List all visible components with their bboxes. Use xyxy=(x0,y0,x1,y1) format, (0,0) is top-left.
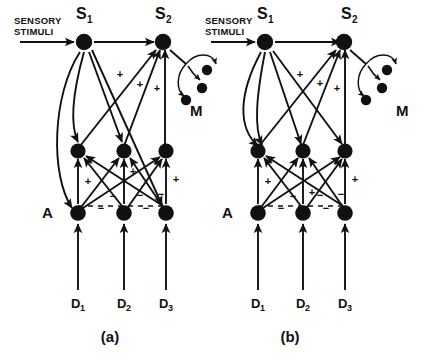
panel-a-plus-1: + xyxy=(117,68,123,80)
panel-b-edge-b1-s2 xyxy=(260,50,336,145)
panel-a-d3-label: D xyxy=(159,296,168,311)
panel-b-motor-node-2 xyxy=(377,83,387,93)
panel-b-minus-3: − xyxy=(290,190,296,202)
panel-b-minus-5: − xyxy=(338,188,344,200)
panel-b-d2-sub: 2 xyxy=(305,303,310,313)
panel-a-plus-3: + xyxy=(154,82,160,94)
panel-b-s2-label: S xyxy=(341,5,352,22)
panel-b-plus-4: + xyxy=(265,175,271,187)
panel-a-d3-sub: 3 xyxy=(168,303,173,313)
panel-a-edge-s1-a1 xyxy=(57,52,80,208)
panel-b-d1-sub: 1 xyxy=(260,303,265,313)
panel-b-motor-node-1 xyxy=(382,65,392,75)
panel-a-plus-2: + xyxy=(137,78,143,90)
panel-b-plus-1: + xyxy=(297,68,303,80)
panel-a-caption: (a) xyxy=(101,328,119,345)
panel-b-edge-s1-b3 xyxy=(273,51,342,144)
panel-a-node-b1 xyxy=(70,143,85,158)
panel-a-s2-sub: 2 xyxy=(166,14,172,25)
panel-b-node-a3 xyxy=(337,205,353,221)
panel-a-motor-node-1 xyxy=(202,65,212,75)
circuit-diagram-svg: SENSORY STIMULI S 1 S 2 + + + xyxy=(0,0,432,362)
panel-a-s2-label: S xyxy=(155,5,166,22)
panel-b-d2-label: D xyxy=(296,296,305,311)
panel-a-node-a2 xyxy=(116,205,132,221)
panel-a-d2-label: D xyxy=(117,296,126,311)
panel-a-minus-1: − xyxy=(98,202,104,214)
panel-b-node-s1 xyxy=(257,34,273,50)
panel-a-minus-4: − xyxy=(137,189,143,201)
panel-b-node-a2 xyxy=(295,205,311,221)
panel-a-node-s2 xyxy=(155,34,171,50)
panel-a-node-b3 xyxy=(158,143,173,158)
panel-b-m-label: M xyxy=(396,102,409,119)
panel-a-m-label: M xyxy=(190,102,203,119)
panel-a: SENSORY STIMULI S 1 S 2 + + + xyxy=(14,5,216,345)
panel-a-s1-label: S xyxy=(76,5,87,22)
panel-b-sensory-line2: STIMULI xyxy=(205,26,244,37)
panel-a-edge-b2-s2 xyxy=(124,50,160,146)
panel-a-edge-motor-branch-2 xyxy=(178,64,186,96)
panel-a-minus-5: − xyxy=(158,188,164,200)
panel-a-node-a1 xyxy=(70,205,86,221)
panel-a-edge-a1-b3 xyxy=(83,157,160,208)
panel-b: SENSORY STIMULI S 1 S 2 + + + M xyxy=(205,5,409,345)
panel-b-a-label: A xyxy=(222,204,233,221)
panel-b-minus-1: − xyxy=(278,202,284,214)
panel-b-s1-label: S xyxy=(257,5,268,22)
panel-a-d1-sub: 1 xyxy=(80,303,85,313)
panel-a-edge-s2-motor-stem xyxy=(170,50,186,64)
panel-b-minus-2: − xyxy=(323,202,329,214)
panel-a-d1-label: D xyxy=(71,296,80,311)
panel-b-minus-4: − xyxy=(317,189,323,201)
panel-a-edge-s1-b1 xyxy=(73,52,84,142)
panel-b-d3-sub: 3 xyxy=(347,303,352,313)
panel-b-node-b3 xyxy=(337,143,352,158)
panel-a-sensory-line1: SENSORY xyxy=(14,15,62,26)
panel-a-a-label: A xyxy=(42,204,53,221)
panel-b-node-s2 xyxy=(336,34,352,50)
panel-a-motor-node-2 xyxy=(197,83,207,93)
panel-b-sensory-line1: SENSORY xyxy=(205,15,253,26)
panel-b-edge-s1-b2 xyxy=(270,52,301,144)
panel-b-node-b1 xyxy=(250,143,265,158)
panel-b-d3-label: D xyxy=(338,296,347,311)
panel-a-minus-3: − xyxy=(110,190,116,202)
panel-a-minus-2: − xyxy=(143,202,149,214)
panel-a-plus-4: + xyxy=(85,175,91,187)
panel-a-edge-motor-branch-1 xyxy=(186,55,216,64)
panel-b-motor-node-3 xyxy=(361,95,371,105)
panel-a-edge-motor-branch-3 xyxy=(188,66,200,80)
panel-a-node-b2 xyxy=(116,143,131,158)
panel-b-edge-motor-branch-2 xyxy=(358,64,366,96)
panel-b-plus-3: + xyxy=(334,82,340,94)
figure-container: SENSORY STIMULI S 1 S 2 + + + xyxy=(0,0,432,362)
panel-b-edge-motor-branch-1 xyxy=(366,55,396,64)
panel-a-s1-sub: 1 xyxy=(87,14,93,25)
panel-b-plus-2: + xyxy=(317,77,323,89)
panel-b-s1-sub: 1 xyxy=(268,14,274,25)
panel-b-node-b2 xyxy=(295,143,310,158)
panel-b-edge-s1-b1-inner xyxy=(257,52,265,145)
panel-b-edge-s2-motor-stem xyxy=(350,50,366,64)
panel-a-node-a3 xyxy=(158,205,174,221)
panel-b-edge-motor-branch-3 xyxy=(368,66,380,80)
panel-a-plus-6: + xyxy=(173,173,179,185)
panel-b-s2-sub: 2 xyxy=(352,14,358,25)
panel-a-d2-sub: 2 xyxy=(126,303,131,313)
panel-a-node-s1 xyxy=(76,34,92,50)
panel-b-node-a1 xyxy=(250,205,266,221)
panel-b-caption: (b) xyxy=(280,328,299,345)
panel-b-edge-a1-b3 xyxy=(263,157,340,208)
panel-a-sensory-line2: STIMULI xyxy=(14,26,53,37)
panel-b-plus-6: + xyxy=(352,173,358,185)
panel-b-d1-label: D xyxy=(251,296,260,311)
